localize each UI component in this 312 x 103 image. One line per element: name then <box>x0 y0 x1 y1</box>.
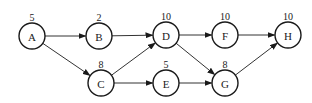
node-weight: 10 <box>220 11 230 22</box>
node-label: C <box>97 78 104 90</box>
node-a: A5 <box>19 12 45 49</box>
node-c: C8 <box>88 59 114 96</box>
node-g: G8 <box>212 59 238 96</box>
node-label: H <box>284 30 292 42</box>
node-label: E <box>163 78 170 90</box>
edge-a-c <box>43 43 90 75</box>
edge-g-h <box>235 43 277 75</box>
node-weight: 10 <box>161 11 171 22</box>
node-label: G <box>221 78 229 90</box>
node-weight: 2 <box>97 12 102 23</box>
node-weight: 5 <box>164 59 169 70</box>
node-weight: 10 <box>283 11 293 22</box>
node-label: D <box>162 30 170 42</box>
edge-d-g <box>176 43 214 74</box>
node-b: B2 <box>86 12 112 49</box>
edge-b-d <box>112 35 153 36</box>
nodes: A5B2C8D10E5F10G8H10 <box>19 11 301 96</box>
node-e: E5 <box>153 59 179 96</box>
edge-c-d <box>111 43 155 75</box>
node-weight: 8 <box>223 59 228 70</box>
node-d: D10 <box>153 11 179 48</box>
node-label: B <box>95 31 102 43</box>
node-weight: 8 <box>99 59 104 70</box>
node-label: F <box>222 30 228 42</box>
node-weight: 5 <box>30 12 35 23</box>
node-label: A <box>28 31 36 43</box>
node-h: H10 <box>275 11 301 48</box>
node-f: F10 <box>212 11 238 48</box>
activity-network-diagram: A5B2C8D10E5F10G8H10 <box>0 0 312 103</box>
